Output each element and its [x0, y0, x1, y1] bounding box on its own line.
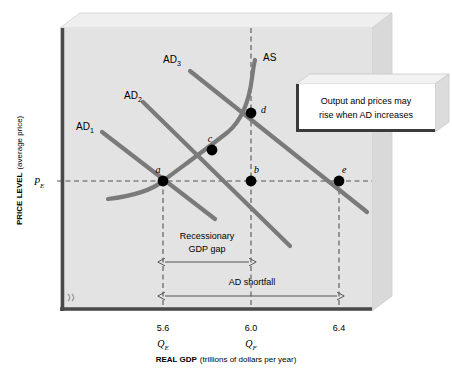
slab-right-face: [372, 13, 392, 311]
economics-ad-as-figure: a c b d e AD1 AD2 AD3 AS Recessionary GD…: [0, 0, 452, 370]
x-tick-value-60: 6.0: [245, 323, 258, 333]
point-a: [158, 176, 169, 187]
point-e: [334, 176, 345, 187]
slab-top-face: [60, 13, 392, 28]
plot-background: [60, 28, 372, 311]
recessionary-gap-line1: Recessionary: [180, 231, 235, 241]
point-d: [246, 108, 257, 119]
point-label-e: e: [342, 164, 347, 175]
callout-box: Output and prices may rise when AD incre…: [296, 74, 449, 132]
chart-canvas: a c b d e AD1 AD2 AD3 AS Recessionary GD…: [0, 0, 452, 370]
x-tick-value-56: 5.6: [157, 323, 170, 333]
callout-line-2: rise when AD increases: [319, 110, 414, 120]
callout-top-face: [296, 74, 449, 84]
curve-label-as: AS: [263, 52, 277, 63]
callout-right-face: [435, 74, 449, 132]
y-axis-title: PRICE LEVEL(average price): [15, 115, 24, 225]
callout-line-1: Output and prices may: [321, 96, 412, 106]
point-label-b: b: [254, 164, 259, 175]
y-tick-pe: PE: [33, 176, 45, 190]
x-axis-title: REAL GDP(trillions of dollars per year): [156, 355, 297, 364]
point-label-a: a: [156, 164, 161, 175]
point-label-c: c: [208, 133, 213, 144]
x-tick-symbol-qe: QE: [157, 338, 169, 352]
x-tick-labels: 5.6 QE 6.0 QF 6.4: [157, 323, 346, 352]
chart-3d-slab: [60, 13, 392, 311]
svg-text:PRICE LEVEL(average price): PRICE LEVEL(average price): [15, 115, 24, 225]
point-c: [207, 145, 218, 156]
callout-face: [296, 84, 435, 132]
recessionary-gap-line2: GDP gap: [189, 244, 226, 254]
ad-shortfall-label: AD shortfall: [229, 277, 276, 287]
x-tick-symbol-qf: QF: [245, 338, 257, 352]
point-b: [246, 176, 257, 187]
x-tick-value-64: 6.4: [333, 323, 346, 333]
